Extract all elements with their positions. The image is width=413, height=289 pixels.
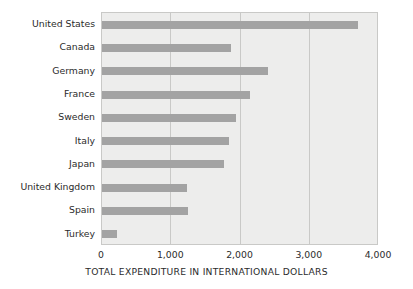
y-axis-label-spain: Spain: [69, 198, 95, 221]
y-axis-label-united-kingdom: United Kingdom: [20, 175, 95, 198]
bar-sweden: [102, 114, 236, 122]
bar-row: [102, 176, 377, 199]
bar-row: [102, 106, 377, 129]
bar-germany: [102, 67, 268, 75]
bar-row: [102, 83, 377, 106]
x-tick-label-0: 0: [98, 249, 104, 260]
y-axis-label-canada: Canada: [60, 35, 95, 58]
bar-united-kingdom: [102, 184, 187, 192]
bar-row: [102, 13, 377, 36]
bar-row: [102, 199, 377, 222]
x-tick-label-3000: 3,000: [295, 249, 322, 260]
y-axis-label-italy: Italy: [75, 129, 95, 152]
bar-spain: [102, 207, 188, 215]
y-axis-label-turkey: Turkey: [65, 222, 95, 245]
y-axis-label-japan: Japan: [69, 152, 95, 175]
bar-italy: [102, 137, 229, 145]
bar-row: [102, 130, 377, 153]
y-axis-label-france: France: [64, 82, 95, 105]
bar-row: [102, 36, 377, 59]
y-axis-label-sweden: Sweden: [58, 105, 95, 128]
bar-france: [102, 91, 250, 99]
x-axis-title: TOTAL EXPENDITURE IN INTERNATIONAL DOLLA…: [0, 266, 413, 277]
bar-japan: [102, 160, 224, 168]
bar-chart: United StatesCanadaGermanyFranceSwedenIt…: [0, 0, 413, 289]
bar-turkey: [102, 230, 117, 238]
bar-united-states: [102, 21, 358, 29]
y-axis-label-germany: Germany: [52, 59, 95, 82]
bar-row: [102, 153, 377, 176]
bar-canada: [102, 44, 231, 52]
x-tick-label-1000: 1,000: [157, 249, 184, 260]
bar-row: [102, 223, 377, 246]
y-axis-label-united-states: United States: [32, 12, 95, 35]
x-tick-label-2000: 2,000: [226, 249, 253, 260]
bar-row: [102, 60, 377, 83]
plot-area: [101, 12, 378, 245]
x-tick-label-4000: 4,000: [365, 249, 392, 260]
